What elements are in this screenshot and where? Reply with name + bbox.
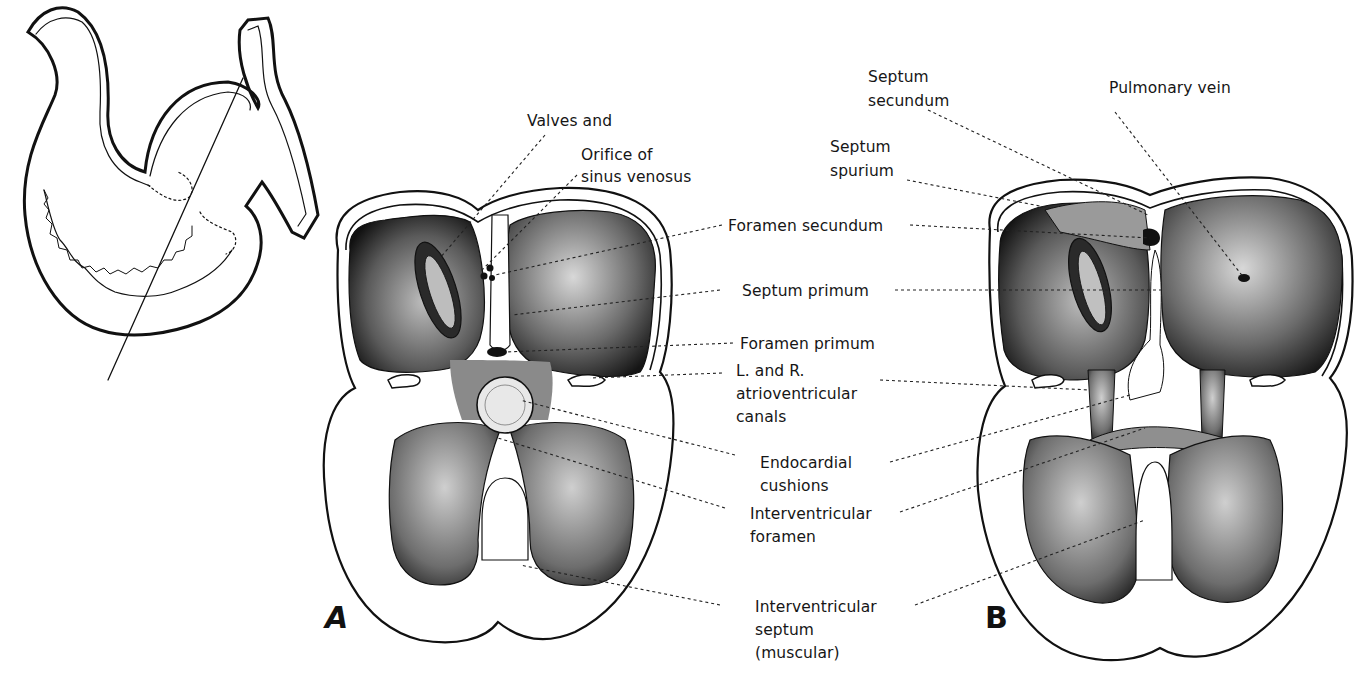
label-septum-spurium-line1: Septum bbox=[830, 137, 891, 157]
label-av-canals-line2: atrioventricular bbox=[736, 384, 857, 404]
label-septum-secundum-line1: Septum bbox=[868, 67, 929, 87]
panel-letter-a: A bbox=[325, 600, 348, 635]
label-orifice-of: Orifice of bbox=[581, 145, 653, 165]
label-iv-septum-line1: Interventricular bbox=[755, 597, 877, 617]
heart-septation-figure: Valves and Orifice of sinus venosus Fora… bbox=[0, 0, 1371, 680]
figure-artwork bbox=[0, 0, 1371, 680]
label-iv-septum-line3: (muscular) bbox=[755, 643, 840, 663]
label-septum-primum: Septum primum bbox=[742, 281, 869, 301]
label-endocardial-cushions-line1: Endocardial bbox=[760, 453, 852, 473]
label-septum-spurium-line2: spurium bbox=[830, 161, 894, 181]
label-av-canals-line3: canals bbox=[736, 407, 786, 427]
panel-b-heart bbox=[977, 177, 1352, 660]
label-pulmonary-vein: Pulmonary vein bbox=[1109, 78, 1231, 98]
inset-heart-tube bbox=[24, 8, 318, 380]
label-iv-septum-line2: septum bbox=[755, 620, 814, 640]
panel-a-heart bbox=[324, 188, 674, 642]
label-endocardial-cushions-line2: cushions bbox=[760, 476, 829, 496]
label-septum-secundum-line2: secundum bbox=[868, 91, 949, 111]
label-iv-foramen-line2: foramen bbox=[750, 527, 816, 547]
label-av-canals-line1: L. and R. bbox=[736, 361, 805, 381]
panel-letter-b: B bbox=[985, 600, 1008, 635]
label-iv-foramen-line1: Interventricular bbox=[750, 504, 872, 524]
label-valves-and: Valves and bbox=[527, 111, 612, 131]
label-foramen-secundum: Foramen secundum bbox=[728, 216, 883, 236]
label-sinus-venosus: sinus venosus bbox=[581, 167, 691, 187]
label-foramen-primum: Foramen primum bbox=[740, 334, 875, 354]
